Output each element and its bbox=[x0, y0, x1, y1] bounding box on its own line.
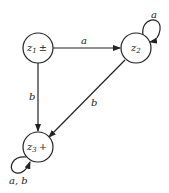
state-z2: z2 bbox=[121, 33, 151, 63]
edge-label-z1-z3: b bbox=[29, 91, 35, 102]
edge-z3-self bbox=[11, 157, 30, 173]
edge-label-z2-z3: b bbox=[91, 97, 97, 108]
state-z3: z3+ bbox=[23, 132, 53, 162]
state-z1: z1± bbox=[23, 33, 53, 63]
edge-label-z2-self: a bbox=[151, 9, 157, 20]
edge-z2-z3 bbox=[49, 60, 125, 137]
automaton-diagram: a a b b a, b z1± z2 z3+ bbox=[0, 0, 169, 193]
edge-label-z1-z2: a bbox=[81, 35, 87, 46]
edge-label-z3-self: a, b bbox=[9, 175, 28, 186]
